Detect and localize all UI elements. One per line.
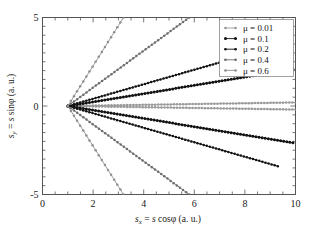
chart-figure: 0246810-505 sx = s cosφ (a. u.) sy = s s…	[0, 0, 316, 237]
legend-label-1: μ = 0.1	[243, 34, 269, 44]
legend-label-4: μ = 0.6	[243, 66, 269, 76]
x-tick-label: 0	[40, 198, 45, 209]
y-tick-label: 5	[34, 12, 39, 23]
legend-label-0: μ = 0.01	[243, 23, 273, 33]
y-tick-label: 0	[34, 101, 39, 112]
chart-legend: μ = 0.01μ = 0.1μ = 0.2μ = 0.4μ = 0.6	[220, 20, 294, 77]
legend-label-2: μ = 0.2	[243, 44, 269, 54]
x-tick-label: 8	[242, 198, 247, 209]
scatter-ray-plot: 0246810-505 sx = s cosφ (a. u.) sy = s s…	[0, 0, 316, 237]
legend-label-3: μ = 0.4	[243, 55, 269, 65]
x-tick-label: 2	[91, 198, 96, 209]
x-tick-label: 4	[141, 198, 146, 209]
y-tick-label: -5	[30, 189, 38, 200]
x-tick-label: 6	[192, 198, 197, 209]
x-tick-label: 10	[291, 198, 301, 209]
